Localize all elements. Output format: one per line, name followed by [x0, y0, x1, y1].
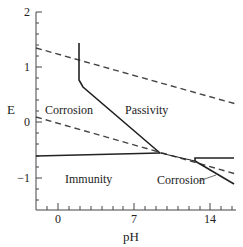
hydrogen-dashed-line — [36, 117, 236, 174]
x-tick-label-7: 7 — [131, 212, 137, 226]
region-label-passivity: Passivity — [125, 103, 168, 117]
immunity-boundary — [36, 153, 160, 156]
region-label-corrosion-alkaline: Corrosion — [157, 173, 205, 187]
y-tick-label-1: 1 — [24, 60, 30, 74]
region-label-immunity: Immunity — [65, 172, 112, 186]
x-axis-label: pH — [123, 229, 139, 244]
x-tick-label-0: 0 — [55, 212, 61, 226]
oxygen-dashed-line — [36, 48, 236, 104]
y-tick-label-0: 0 — [24, 115, 30, 129]
region-label-corrosion-acid: Corrosion — [45, 103, 93, 117]
y-tick-label-2: 2 — [24, 5, 30, 19]
y-ticks — [36, 12, 42, 200]
x-tick-label-14: 14 — [204, 212, 216, 226]
passivity-immunity-boundary — [160, 153, 195, 161]
y-axis-label: E — [7, 102, 15, 117]
y-tick-label-minus1: −1 — [17, 171, 30, 185]
x-ticks — [47, 203, 232, 210]
upper-alkaline-boundary — [195, 158, 234, 161]
corrosion-passivity-boundary — [79, 43, 160, 153]
pourbaix-diagram: 2 1 0 −1 0 7 14 E pH Corrosion Passivity… — [0, 0, 243, 247]
